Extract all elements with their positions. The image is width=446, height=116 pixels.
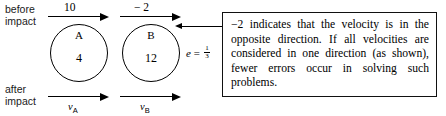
- velocity-subscript-a: A: [73, 106, 78, 115]
- restitution-denominator: 3: [204, 53, 210, 60]
- arrow-head: [100, 13, 109, 21]
- before-impact-label-line1: before: [5, 4, 36, 16]
- arrow-shaft: [48, 16, 102, 17]
- callout-leader-line-icon: [175, 23, 223, 30]
- arrow-shaft: [48, 96, 102, 97]
- arrow-shaft: [120, 96, 174, 97]
- arrow-head: [172, 93, 181, 101]
- body-b-name: B: [123, 29, 179, 41]
- velocity-arrow-b-after-icon: [120, 92, 182, 101]
- restitution-fraction: 1 3: [204, 45, 210, 61]
- after-impact-label-line1: after: [5, 84, 36, 96]
- restitution-symbol: e: [186, 47, 191, 59]
- callout-text: −2 indicates that the velocity is in the…: [231, 18, 429, 91]
- restitution-equals: =: [193, 47, 200, 59]
- velocity-value-b-before: − 2: [134, 1, 149, 13]
- arrow-head: [172, 13, 181, 21]
- body-a-mass: 4: [51, 51, 107, 66]
- arrow-head: [100, 93, 109, 101]
- callout-box: −2 indicates that the velocity is in the…: [222, 12, 437, 97]
- restitution-coefficient-label: e = 1 3: [186, 45, 210, 61]
- arrow-shaft: [120, 16, 174, 17]
- after-impact-label: after impact: [5, 84, 36, 107]
- velocity-value-a-after: vA: [68, 101, 78, 115]
- velocity-subscript-b: B: [145, 106, 150, 115]
- after-impact-label-line2: impact: [5, 96, 36, 108]
- body-a-circle: A 4: [50, 24, 108, 82]
- before-impact-label-line2: impact: [5, 16, 36, 28]
- body-b-circle: B 12: [122, 24, 180, 82]
- velocity-arrow-a-after-icon: [48, 92, 110, 101]
- leader-shaft: [181, 26, 223, 27]
- physics-collision-diagram: before impact after impact 10 − 2 vA vB …: [0, 0, 446, 116]
- body-b-mass: 12: [123, 51, 179, 66]
- velocity-value-a-before: 10: [64, 1, 76, 13]
- velocity-arrow-b-before-icon: [120, 12, 182, 21]
- body-a-name: A: [51, 29, 107, 41]
- velocity-value-b-after: vB: [140, 101, 150, 115]
- before-impact-label: before impact: [5, 4, 36, 27]
- velocity-arrow-a-before-icon: [48, 12, 110, 21]
